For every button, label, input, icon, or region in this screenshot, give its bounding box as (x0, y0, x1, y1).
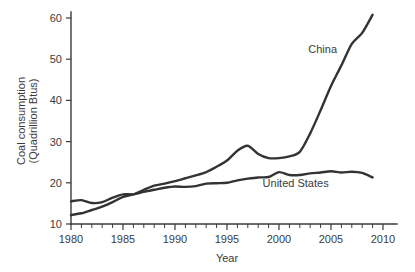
y-tick-label-20: 20 (50, 177, 62, 189)
chart-canvas: 102030405060 198019851990199520002005201… (0, 0, 415, 272)
y-axis: 102030405060 (50, 12, 71, 230)
y-tick-label-30: 30 (50, 136, 62, 148)
y-axis-title-line2: (Quadrillion Btus) (27, 79, 39, 164)
x-tick-label-2000: 2000 (267, 233, 291, 245)
x-tick-label-1995: 1995 (215, 233, 239, 245)
x-axis-title: Year (216, 252, 239, 264)
series-label-united-states: United States (263, 177, 330, 189)
y-tick-label-50: 50 (50, 53, 62, 65)
y-tick-label-60: 60 (50, 12, 62, 24)
y-axis-title-line1: Coal consumption (15, 77, 27, 165)
coal-consumption-line-chart: 102030405060 198019851990199520002005201… (0, 0, 415, 272)
x-tick-label-1985: 1985 (111, 233, 135, 245)
x-axis: 1980198519901995200020052010 (59, 224, 397, 245)
y-tick-label-40: 40 (50, 94, 62, 106)
x-tick-label-2005: 2005 (319, 233, 343, 245)
x-tick-label-1990: 1990 (163, 233, 187, 245)
y-tick-label-10: 10 (50, 218, 62, 230)
x-tick-label-2010: 2010 (371, 233, 395, 245)
x-tick-label-1980: 1980 (59, 233, 83, 245)
series-labels-group: ChinaUnited States (263, 43, 338, 189)
series-label-china: China (308, 43, 338, 55)
